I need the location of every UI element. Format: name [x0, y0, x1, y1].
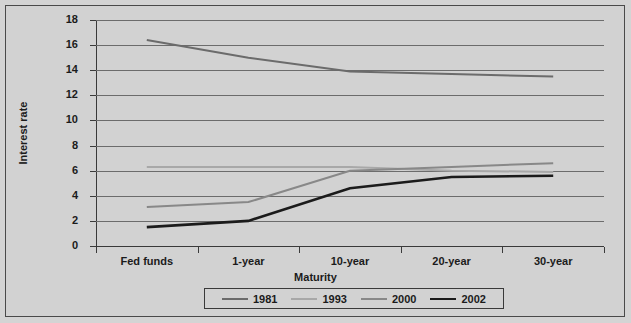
x-axis-tick-label: Fed funds — [121, 255, 174, 267]
x-axis-tick — [96, 247, 97, 253]
y-axis-tick-label: 8 — [34, 139, 78, 151]
series-line-2002 — [147, 176, 553, 227]
x-axis-tick-label: 1-year — [232, 255, 264, 267]
legend-label: 1993 — [322, 293, 346, 305]
legend-swatch-icon — [222, 298, 248, 300]
legend-swatch-icon — [291, 298, 317, 300]
x-axis-tick-label: 10-year — [331, 255, 370, 267]
y-axis-tick-label: 14 — [34, 63, 78, 75]
y-axis-tick-label: 18 — [34, 13, 78, 25]
legend-item-1981[interactable]: 1981 — [222, 293, 277, 305]
legend-swatch-icon — [361, 298, 387, 300]
y-axis-tick-label: 12 — [34, 88, 78, 100]
series-line-2000 — [147, 163, 553, 207]
y-axis-label: Interest rate — [17, 102, 29, 165]
legend-label: 2002 — [461, 293, 485, 305]
x-axis-tick — [299, 247, 300, 253]
x-axis-tick — [401, 247, 402, 253]
x-axis-tick-label: 30-year — [534, 255, 573, 267]
legend-swatch-icon — [430, 298, 456, 300]
legend-item-2002[interactable]: 2002 — [430, 293, 485, 305]
x-axis-label: Maturity — [0, 271, 631, 283]
y-axis-tick-label: 4 — [34, 189, 78, 201]
y-axis-tick-label: 10 — [34, 113, 78, 125]
x-axis-tick — [198, 247, 199, 253]
figure: Interest rate 024681012141618 Fed funds1… — [0, 0, 631, 323]
legend-item-2000[interactable]: 2000 — [361, 293, 416, 305]
plot-area — [96, 20, 604, 246]
line-chart: Interest rate 024681012141618 Fed funds1… — [0, 0, 631, 323]
y-axis-tick-label: 16 — [34, 38, 78, 50]
legend-label: 2000 — [392, 293, 416, 305]
x-axis-tick — [502, 247, 503, 253]
y-axis-tick-label: 0 — [34, 239, 78, 251]
legend-label: 1981 — [253, 293, 277, 305]
x-axis-tick — [604, 247, 605, 253]
y-axis-tick-label: 2 — [34, 214, 78, 226]
series-line-1981 — [147, 40, 553, 76]
x-axis-tick-label: 20-year — [432, 255, 471, 267]
series-paths — [96, 20, 604, 246]
x-axis-line — [96, 246, 604, 247]
legend-item-1993[interactable]: 1993 — [291, 293, 346, 305]
y-axis-tick-label: 6 — [34, 164, 78, 176]
legend: 1981199320002002 — [204, 288, 504, 309]
y-axis-label-wrap: Interest rate — [14, 20, 32, 246]
